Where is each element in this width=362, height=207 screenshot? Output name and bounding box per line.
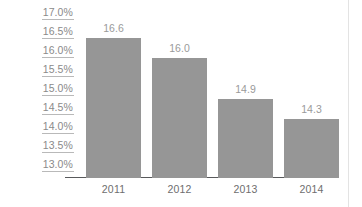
y-axis-tick: 13.5% [0, 135, 78, 155]
bar-value-label: 14.9 [218, 83, 273, 95]
y-axis: 17.0% 16.5% 16.0% 15.5% 15.0% 14.5% 14.0… [0, 0, 78, 207]
x-axis-category-label: 2012 [142, 183, 217, 195]
right-border-rule [348, 0, 349, 207]
y-axis-tick-label: 13.5% [42, 139, 74, 153]
y-axis-tick-label: 14.5% [42, 101, 74, 115]
bar-chart: 17.0% 16.5% 16.0% 15.5% 15.0% 14.5% 14.0… [0, 0, 362, 207]
y-axis-tick-label: 13.0% [42, 158, 74, 172]
y-axis-tick-label: 16.0% [42, 44, 74, 58]
y-axis-tick-label: 17.0% [42, 6, 74, 20]
y-axis-tick: 14.5% [0, 97, 78, 117]
x-axis-category-label: 2013 [208, 183, 283, 195]
y-axis-tick: 15.5% [0, 59, 78, 79]
y-axis-tick: 13.0% [0, 154, 78, 174]
y-axis-tick: 15.0% [0, 78, 78, 98]
y-axis-tick: 16.0% [0, 40, 78, 60]
x-axis-category-label: 2011 [76, 183, 151, 195]
plot-area: 16.6 2011 16.0 2012 14.9 2013 14.3 2014 [78, 0, 362, 207]
y-axis-tick-label: 14.0% [42, 120, 74, 134]
y-axis-tick-label: 16.5% [42, 25, 74, 39]
bar[interactable] [86, 38, 141, 178]
x-axis-category-label: 2014 [274, 183, 349, 195]
y-axis-tick: 17.0% [0, 2, 78, 22]
y-axis-tick: 16.5% [0, 21, 78, 41]
bar[interactable] [284, 119, 339, 178]
y-axis-tick-label: 15.0% [42, 82, 74, 96]
bar-value-label: 16.6 [86, 22, 141, 34]
bar-value-label: 14.3 [284, 103, 339, 115]
bar[interactable] [152, 58, 207, 178]
y-axis-tick-label: 15.5% [42, 63, 74, 77]
bar[interactable] [218, 99, 273, 178]
y-axis-tick: 14.0% [0, 116, 78, 136]
bar-value-label: 16.0 [152, 42, 207, 54]
